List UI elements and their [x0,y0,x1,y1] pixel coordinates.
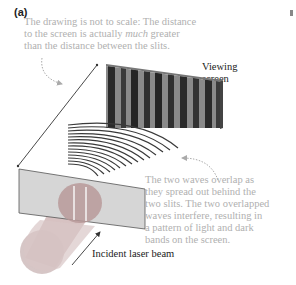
cropped-panel-mark [290,10,293,16]
overlap-note-line3: two slits. The two overlapped [145,198,285,210]
overlap-note-line2: they spread out behind the [145,186,285,198]
overlap-note: The two waves overlap as they spread out… [145,174,285,246]
incident-beam-label: Incident laser beam [92,248,174,260]
slit-2 [85,187,87,221]
overlap-note-line6: bands on the screen. [145,234,285,246]
scale-note-pointer [42,58,62,84]
overlap-note-line4: waves interfere, resulting in [145,210,285,222]
barrier-plate [19,169,145,229]
overlap-note-line1: The two waves overlap as [145,174,285,186]
overlap-note-line5: a pattern of light and dark [145,222,285,234]
wavefronts [68,123,178,176]
slit-1 [73,186,75,220]
viewing-screen [106,60,223,130]
distance-line [18,65,97,166]
